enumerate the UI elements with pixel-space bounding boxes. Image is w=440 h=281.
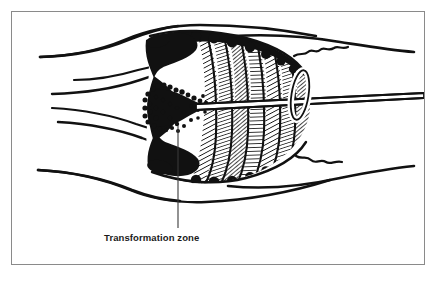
uterine-torn-edge-lower [296, 156, 342, 163]
uterine-torn-edge-upper [294, 47, 348, 56]
figure-root: Transformation zone [0, 0, 440, 281]
transformation-zone-label: Transformation zone [104, 232, 264, 244]
